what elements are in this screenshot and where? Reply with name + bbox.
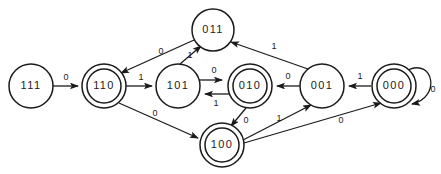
state-node-010[interactable]: 010: [228, 64, 272, 108]
edge-010-to-100: 0: [231, 108, 249, 126]
edge-001-to-010: 0: [277, 71, 300, 86]
state-node-101[interactable]: 101: [156, 64, 200, 108]
state-label-011: 011: [202, 23, 224, 35]
edge-101-to-010: 0: [199, 65, 222, 80]
state-label-100: 100: [211, 138, 234, 150]
state-label-000: 000: [383, 79, 406, 91]
fsm-canvas: 0 1 0 1 0: [0, 0, 441, 174]
edge-label-110-101: 1: [138, 72, 143, 82]
state-machine-diagram: 0 1 0 1 0: [0, 0, 441, 174]
edge-label-100-001: 1: [276, 113, 281, 123]
edge-label-010-101: 1: [213, 98, 218, 108]
edge-label-100-000: 0: [338, 115, 343, 125]
edge-label-000-001: 1: [357, 71, 362, 81]
states-layer: 111 110 101 010 001: [9, 9, 416, 167]
edge-100-to-001: 1: [243, 105, 311, 140]
edge-label-010-100: 0: [243, 115, 248, 125]
edge-100-to-000: 0: [244, 103, 381, 143]
edge-label-101-010: 0: [211, 65, 216, 75]
edge-label-110-100: 0: [152, 108, 157, 118]
state-node-001[interactable]: 001: [300, 64, 344, 108]
edge-label-101-011: 1: [187, 50, 192, 60]
edge-label-000-self: 0: [430, 84, 435, 94]
edge-label-001-011: 1: [271, 41, 276, 51]
state-node-100[interactable]: 100: [200, 123, 244, 167]
state-label-110: 110: [93, 79, 115, 91]
state-label-001: 001: [311, 79, 334, 91]
edge-010-to-101: 1: [205, 94, 229, 108]
edge-101-to-011: 1: [180, 46, 201, 64]
state-label-111: 111: [21, 79, 42, 91]
edge-111-to-110: 0: [53, 72, 78, 86]
state-label-101: 101: [167, 79, 190, 91]
edge-label-111-110: 0: [63, 72, 68, 82]
edge-110-to-101: 1: [126, 72, 152, 86]
state-label-010: 010: [239, 79, 262, 91]
edge-000-to-001: 1: [349, 71, 371, 86]
state-node-110[interactable]: 110: [82, 64, 126, 108]
edge-label-001-010: 0: [285, 71, 290, 81]
state-node-011[interactable]: 011: [192, 9, 234, 51]
edge-label-011-110: 0: [158, 46, 163, 56]
state-node-000[interactable]: 000: [372, 64, 416, 108]
state-node-111[interactable]: 111: [9, 64, 53, 108]
edge-110-to-100: 0: [119, 103, 198, 138]
